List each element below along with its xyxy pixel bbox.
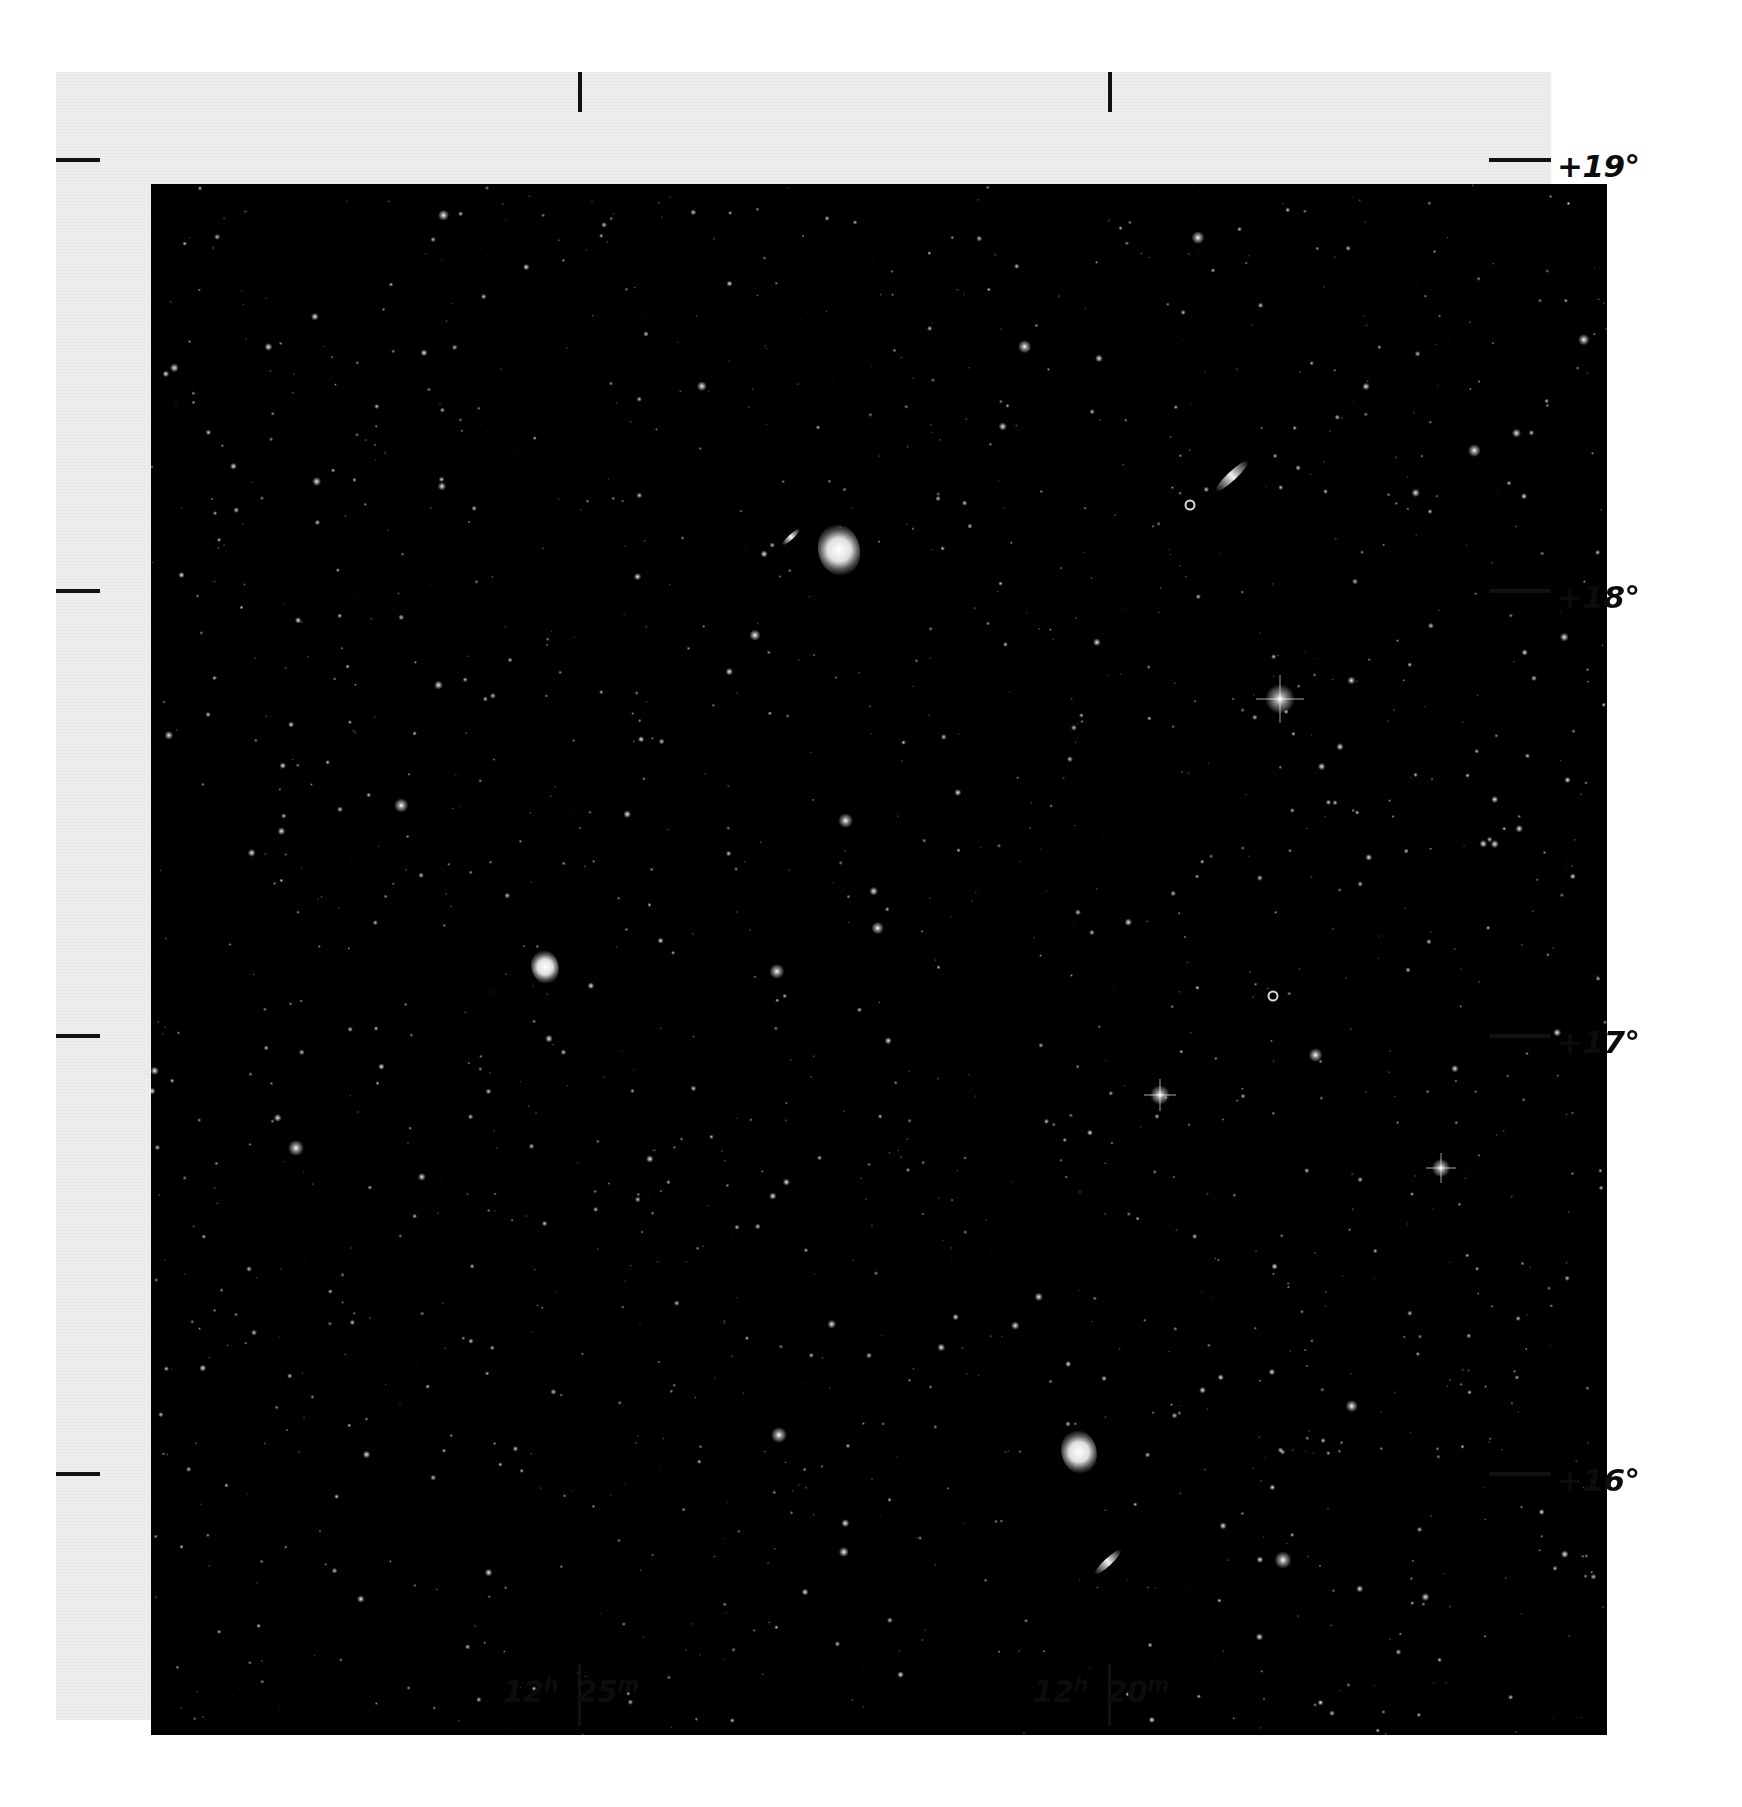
ra-hours-value: 12 xyxy=(1033,1674,1074,1709)
sky-plate-image xyxy=(151,184,1607,1735)
dec-tick-right-17 xyxy=(1489,1034,1551,1038)
photographic-paper xyxy=(56,72,1551,1720)
ra-tick-top-1225 xyxy=(578,72,582,112)
dec-tick-right-16 xyxy=(1489,1472,1551,1476)
dec-label-19: +19° xyxy=(1557,148,1640,184)
dec-tick-left-19 xyxy=(56,158,100,162)
ra-minutes-unit: m xyxy=(1147,1673,1169,1697)
ra-tick-top-1220 xyxy=(1108,72,1112,112)
ra-minutes-value: 25 xyxy=(577,1674,618,1709)
ra-hours-value: 12 xyxy=(503,1674,544,1709)
dec-label-16: +16° xyxy=(1557,1462,1640,1498)
ra-label-1225: 12h25m xyxy=(503,1674,639,1709)
ra-minutes-unit: m xyxy=(617,1673,639,1697)
ra-minutes-value: 20 xyxy=(1107,1674,1148,1709)
dec-tick-left-17 xyxy=(56,1034,100,1038)
star-field-canvas xyxy=(151,184,1607,1735)
plate-figure: +19° +18° +17° +16° 12h25m 12h20m xyxy=(0,0,1742,1807)
ra-hours-unit: h xyxy=(544,1673,559,1697)
dec-tick-right-18 xyxy=(1489,589,1551,593)
ra-label-1220: 12h20m xyxy=(1033,1674,1169,1709)
dec-label-17: +17° xyxy=(1557,1024,1640,1060)
dec-tick-left-16 xyxy=(56,1472,100,1476)
dec-tick-left-18 xyxy=(56,589,100,593)
dec-label-18: +18° xyxy=(1557,579,1640,615)
dec-tick-right-19 xyxy=(1489,158,1551,162)
ra-hours-unit: h xyxy=(1074,1673,1089,1697)
